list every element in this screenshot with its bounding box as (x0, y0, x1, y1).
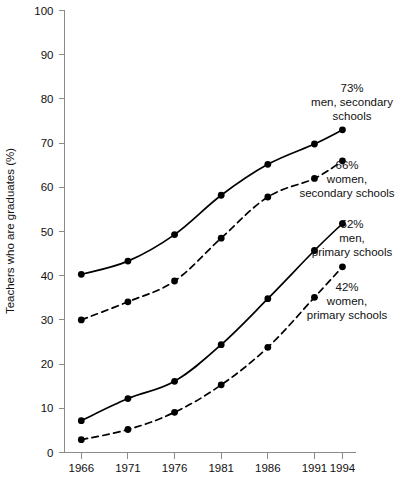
data-point (171, 231, 178, 238)
y-axis-title-text: Teachers who are graduates (%) (4, 148, 16, 314)
data-series (78, 126, 346, 443)
x-tick-label: 1991 (302, 462, 328, 474)
data-point (218, 192, 225, 199)
annotation-line2: schools (333, 110, 372, 122)
y-tick-label: 100 (34, 5, 53, 17)
line-chart: 0102030405060708090100 19661971197619811… (0, 0, 402, 479)
y-tick-label: 70 (41, 137, 54, 149)
data-point (264, 161, 271, 168)
annotation-line1: men, secondary (311, 96, 393, 108)
data-point (311, 175, 318, 182)
annotation-value: 42% (335, 281, 358, 293)
y-axis-title: Teachers who are graduates (%) (4, 148, 16, 314)
data-point (311, 294, 318, 301)
data-point (125, 258, 132, 265)
y-tick-label: 30 (41, 314, 54, 326)
y-tick-label: 50 (41, 226, 54, 238)
annotation-value: 52% (340, 218, 363, 230)
data-point (125, 298, 132, 305)
y-tick-label: 20 (41, 358, 54, 370)
data-point (264, 344, 271, 351)
data-point (125, 426, 132, 433)
data-point (264, 194, 271, 201)
series-annotation: 42%women,primary schools (307, 281, 388, 321)
annotation-line2: primary schools (307, 309, 388, 321)
annotation-line1: women, (326, 173, 367, 185)
annotation-line1: women, (326, 295, 367, 307)
data-point (339, 126, 346, 133)
data-point (218, 381, 225, 388)
x-tick-label: 1981 (208, 462, 234, 474)
x-tick-label: 1986 (255, 462, 281, 474)
axis-lines (65, 11, 356, 453)
chart-container: 0102030405060708090100 19661971197619811… (0, 0, 402, 479)
data-point (125, 395, 132, 402)
series-annotation: 73%men, secondaryschools (311, 82, 393, 122)
annotation-line1: men, (339, 232, 365, 244)
data-point (339, 263, 346, 270)
x-axis-ticks: 1966197119761981198619911994 (68, 453, 355, 474)
annotation-value: 66% (335, 159, 358, 171)
x-tick-label: 1971 (115, 462, 141, 474)
x-tick-label: 1976 (162, 462, 188, 474)
y-tick-label: 40 (41, 270, 54, 282)
data-point (218, 341, 225, 348)
data-point (264, 295, 271, 302)
data-point (171, 409, 178, 416)
data-point (218, 235, 225, 242)
series-line-1 (81, 161, 342, 320)
data-point (171, 278, 178, 285)
series-annotation: 52%men,primary schools (312, 218, 393, 258)
y-axis-ticks: 0102030405060708090100 (34, 5, 64, 459)
data-point (78, 271, 85, 278)
data-point (311, 141, 318, 148)
y-tick-label: 10 (41, 402, 54, 414)
x-tick-label: 1966 (68, 462, 94, 474)
data-point (78, 317, 85, 324)
y-tick-label: 60 (41, 181, 54, 193)
y-tick-label: 0 (47, 447, 53, 459)
annotation-line2: primary schools (312, 246, 393, 258)
x-tick-label: 1994 (330, 462, 356, 474)
series-annotations: 73%men, secondaryschools66%women,seconda… (299, 82, 394, 321)
axes (65, 11, 356, 453)
data-point (171, 378, 178, 385)
annotation-line2: secondary schools (299, 187, 394, 199)
series-line-2 (81, 224, 342, 421)
data-point (78, 436, 85, 443)
y-tick-label: 90 (41, 49, 54, 61)
annotation-value: 73% (340, 82, 363, 94)
series-line-0 (81, 130, 342, 275)
y-tick-label: 80 (41, 93, 54, 105)
data-point (78, 417, 85, 424)
